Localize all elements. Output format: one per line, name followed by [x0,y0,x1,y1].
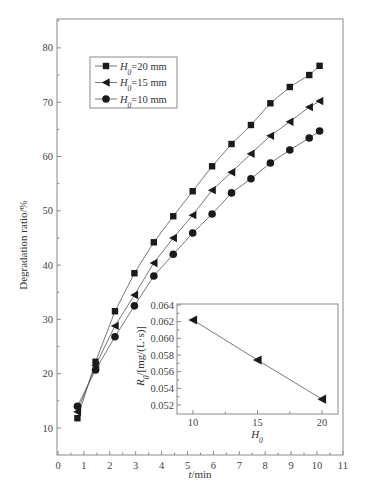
data-point-square [131,270,137,276]
x-tick-label: 10 [312,460,323,471]
x-tick-label: 4 [159,460,165,471]
inset-x-tick-label: 10 [188,417,199,428]
y-tick-label: 80 [43,42,54,53]
data-point-circle [111,333,119,341]
legend: H0=20 mmH0=15 mmH0=10 mm [90,57,177,109]
inset-y-tick-label: 0.058 [150,350,174,361]
data-point-circle [286,146,294,154]
data-point-circle [267,159,275,167]
inset-y-tick-label: 0.054 [150,383,174,394]
data-point-square [267,100,273,106]
chart-canvas: 012345678910111020304050607080t/minDegra… [0,0,365,497]
data-point-square [151,239,157,245]
y-tick-label: 70 [43,97,54,108]
data-point-circle [131,302,139,310]
inset-plot: 1015200.0520.0540.0560.0580.0600.0620.06… [134,300,338,445]
data-point-circle [169,250,177,258]
data-point-circle [74,402,82,410]
data-point-square [228,141,234,147]
x-tick-label: 3 [133,460,138,471]
data-point-square [189,188,195,194]
x-tick-label: 7 [237,460,242,471]
inset-y-tick-label: 0.062 [150,316,174,327]
data-point-circle [208,210,216,218]
x-tick-label: 11 [338,460,348,471]
inset-y-tick-label: 0.064 [150,300,174,311]
data-point-square [316,63,322,69]
data-point-circle [247,175,255,183]
data-point-square [248,122,254,128]
inset-y-axis-title: R0/[mg/(L·s)] [134,326,151,387]
data-point-triangle-left [305,103,313,111]
y-tick-label: 40 [43,260,54,271]
y-tick-label: 60 [43,151,54,162]
inset-x-axis-title: H0 [250,428,263,445]
inset-x-tick-label: 20 [317,417,328,428]
data-point-square [287,84,293,90]
data-point-triangle-left [169,234,177,242]
data-point-square [112,308,118,314]
y-tick-label: 30 [43,314,54,325]
data-point-circle [228,189,236,197]
data-point-triangle-left [208,186,216,194]
legend-marker-square [103,63,109,69]
data-point-circle [189,229,197,237]
x-tick-label: 9 [288,460,293,471]
data-point-square [306,72,312,78]
inset-y-tick-label: 0.052 [150,400,174,411]
y-tick-label: 10 [43,423,54,434]
inset-x-tick-label: 15 [252,417,263,428]
y-tick-label: 20 [43,368,54,379]
y-tick-label: 50 [43,205,54,216]
data-point-triangle-left [150,259,158,267]
x-tick-label: 1 [81,460,86,471]
inset-y-tick-label: 0.060 [150,333,174,344]
y-axis-title: Degradation ratio/% [17,200,29,290]
inset-y-tick-label: 0.056 [150,366,174,377]
x-tick-label: 0 [55,460,60,471]
x-tick-label: 2 [107,460,112,471]
x-axis-title: t/min [188,468,212,480]
data-point-square [74,415,80,421]
data-point-circle [305,134,313,142]
data-point-triangle-left [315,97,323,105]
data-point-triangle-left [286,118,294,126]
legend-marker-circle [102,95,110,103]
data-point-circle [92,366,100,374]
data-point-triangle-left [130,291,138,299]
data-point-circle [316,127,324,135]
degradation-chart: 012345678910111020304050607080t/minDegra… [0,0,365,497]
data-point-square [170,213,176,219]
data-point-square [209,163,215,169]
data-point-circle [150,272,158,280]
data-point-triangle-left [111,322,119,330]
x-tick-label: 8 [263,460,268,471]
